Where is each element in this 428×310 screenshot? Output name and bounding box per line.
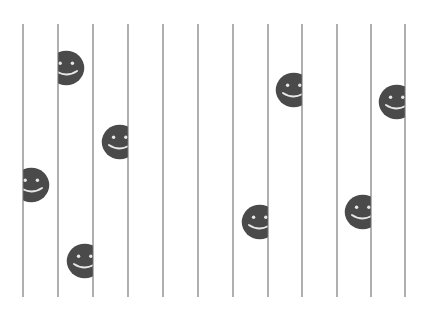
face-eye bbox=[401, 96, 404, 99]
face-eye bbox=[264, 216, 267, 219]
face-eye bbox=[389, 96, 392, 99]
face-eye bbox=[77, 255, 80, 258]
illustration-canvas bbox=[0, 0, 428, 310]
face-eye bbox=[112, 136, 115, 139]
face-eye bbox=[355, 206, 358, 209]
face-eye bbox=[71, 62, 74, 65]
face-eye bbox=[298, 84, 301, 87]
face-eye bbox=[252, 216, 255, 219]
faces-and-lines-figure bbox=[0, 0, 428, 310]
face-eye bbox=[89, 255, 92, 258]
face-eye bbox=[367, 206, 370, 209]
face-eye bbox=[286, 84, 289, 87]
face-eye bbox=[124, 136, 127, 139]
face-eye bbox=[58, 62, 61, 65]
face-eye bbox=[23, 179, 26, 182]
face-eye bbox=[36, 179, 39, 182]
canvas-background bbox=[0, 0, 428, 310]
